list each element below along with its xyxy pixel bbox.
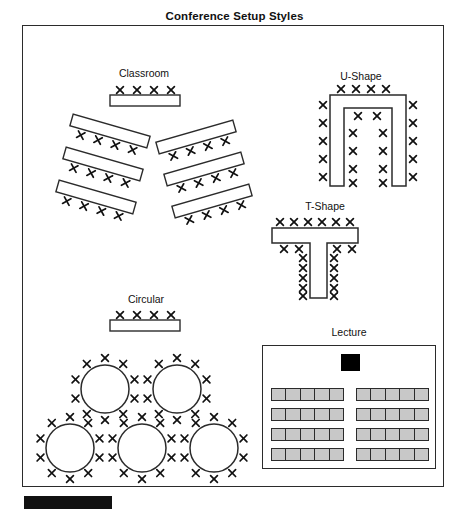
lecture-seat [301,449,315,460]
lecture-seat [415,429,428,440]
section-label-lecture: Lecture [304,326,394,338]
lecture-seat [371,449,385,460]
lecture-seat [272,429,286,440]
lecture-seat-block [356,428,429,441]
page-title: Conference Setup Styles [0,10,469,22]
lecture-setup [262,345,436,469]
lecture-seat-block [356,408,429,421]
lecture-seat [286,449,300,460]
lecture-seat-block [271,428,344,441]
lecture-seat-block [356,388,429,401]
lecture-seat [415,449,428,460]
lecture-seat [272,409,286,420]
lecture-seat [315,409,329,420]
lecture-seat [357,429,371,440]
section-label-u-shape: U-Shape [316,70,406,82]
lecture-seat [315,429,329,440]
lecture-seat [371,389,385,400]
lecture-seat [301,389,315,400]
lecture-seat [415,409,428,420]
lecture-seat [371,409,385,420]
lecture-seat [286,429,300,440]
lecture-seat [357,409,371,420]
lecture-seat [330,449,343,460]
lecture-seat [400,389,414,400]
lecture-seat [357,449,371,460]
lecture-seat [371,429,385,440]
lecture-seat [315,449,329,460]
lecture-seat [272,389,286,400]
lecture-seat [301,409,315,420]
lecture-seat-block [271,408,344,421]
lecture-seat-block [356,448,429,461]
podium-icon [341,354,360,371]
lecture-seat-grid [271,388,429,461]
lecture-seat [386,449,400,460]
lecture-seat [415,389,428,400]
section-label-t-shape: T-Shape [280,200,370,212]
lecture-seat [400,429,414,440]
lecture-seat [330,409,343,420]
bottom-black-bar [24,496,112,509]
lecture-seat [272,449,286,460]
lecture-seat [386,389,400,400]
section-label-classroom: Classroom [96,67,192,79]
lecture-seat [286,389,300,400]
lecture-seat [301,429,315,440]
lecture-seat [330,429,343,440]
lecture-seat [386,429,400,440]
lecture-seat [315,389,329,400]
lecture-seat-block [271,388,344,401]
lecture-seat [330,389,343,400]
lecture-seat [286,409,300,420]
diagram-root: Conference Setup Styles Classroom U-Shap… [0,0,469,509]
section-label-circular: Circular [98,293,194,305]
lecture-seat [400,409,414,420]
lecture-seat-block [271,448,344,461]
lecture-seat [400,449,414,460]
lecture-seat [357,389,371,400]
lecture-seat [386,409,400,420]
